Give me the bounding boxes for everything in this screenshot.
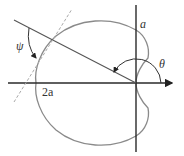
- theta-arc: [114, 59, 161, 83]
- two-a-label: 2a: [42, 86, 53, 98]
- cardioid-diagram: [0, 0, 184, 156]
- psi-label: ψ: [16, 40, 23, 52]
- a-label: a: [140, 18, 146, 30]
- psi-arc: [28, 28, 36, 58]
- theta-label: θ: [159, 58, 165, 70]
